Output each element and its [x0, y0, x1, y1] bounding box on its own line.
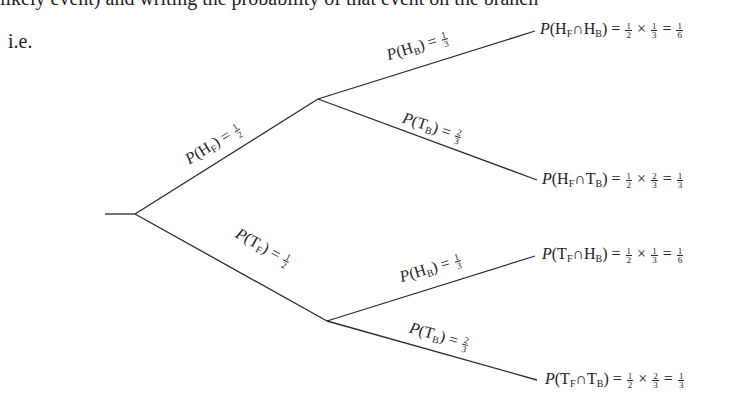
- fraction: 16: [676, 22, 683, 39]
- fraction: 23: [651, 172, 658, 189]
- outcome-hf-hb: P(HF∩HB) = 12 × 13 = 16: [540, 20, 684, 39]
- fraction: 13: [678, 372, 685, 389]
- probability-tree-lines: [0, 0, 754, 412]
- outcome-hf-tb: P(HF∩TB) = 12 × 23 = 13: [542, 170, 684, 189]
- fraction: 12: [625, 22, 632, 39]
- fraction: 23: [652, 372, 659, 389]
- branch-hf-tb: [318, 99, 537, 180]
- fraction: 13: [651, 247, 658, 264]
- branch-tails-first: [135, 214, 327, 321]
- branch-heads-first: [135, 99, 318, 214]
- fraction: 12: [627, 372, 634, 389]
- fraction: 13: [677, 172, 684, 189]
- outcome-tf-tb: P(TF∩TB) = 12 × 23 = 13: [545, 370, 685, 389]
- fraction: 12: [626, 247, 633, 264]
- fraction: 13: [651, 22, 658, 39]
- fraction: 12: [626, 172, 633, 189]
- fraction: 16: [677, 247, 684, 264]
- outcome-tf-hb: P(TF∩HB) = 12 × 13 = 16: [542, 245, 684, 264]
